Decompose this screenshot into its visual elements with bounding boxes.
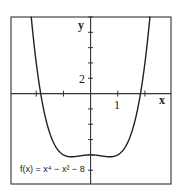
y-axis-label: y bbox=[78, 18, 84, 32]
x-axis-label: x bbox=[159, 93, 165, 107]
y-tick-label-2: 2 bbox=[79, 72, 85, 86]
function-annotation: f(x) = x⁴ − x² − 8 bbox=[20, 164, 85, 174]
function-plot: x y 1 2 f(x) = x⁴ − x² − 8 bbox=[0, 0, 179, 196]
x-tick-label-1: 1 bbox=[114, 98, 120, 112]
